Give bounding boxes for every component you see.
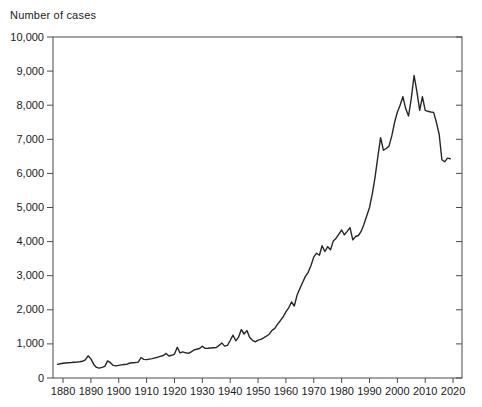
x-axis-tick-label: 1960 bbox=[274, 385, 298, 397]
x-axis-tick-label: 1920 bbox=[162, 385, 186, 397]
x-axis-tick-label: 1880 bbox=[51, 385, 75, 397]
x-axis-tick-label: 2010 bbox=[413, 385, 437, 397]
plot-frame bbox=[53, 37, 462, 378]
y-axis-tick-label: 4,000 bbox=[16, 235, 44, 247]
x-axis-tick-label: 1990 bbox=[357, 385, 381, 397]
chart-plot-area: 01,0002,0003,0004,0005,0006,0007,0008,00… bbox=[0, 0, 482, 407]
x-axis-tick-label: 1930 bbox=[190, 385, 214, 397]
x-axis-tick-label: 1970 bbox=[302, 385, 326, 397]
y-axis-tick-label: 8,000 bbox=[16, 99, 44, 111]
y-axis-tick-label: 9,000 bbox=[16, 65, 44, 77]
x-axis-tick-label: 1890 bbox=[79, 385, 103, 397]
y-axis-tick-label: 10,000 bbox=[10, 31, 44, 43]
x-axis-tick-label: 2000 bbox=[385, 385, 409, 397]
line-chart-figure: Number of cases 01,0002,0003,0004,0005,0… bbox=[0, 0, 482, 407]
y-axis-tick-label: 2,000 bbox=[16, 303, 44, 315]
y-axis-tick-label: 3,000 bbox=[16, 269, 44, 281]
y-axis-tick-label: 6,000 bbox=[16, 167, 44, 179]
x-axis-tick-label: 2020 bbox=[441, 385, 465, 397]
x-axis-tick-label: 1940 bbox=[218, 385, 242, 397]
y-axis-tick-label: 5,000 bbox=[16, 201, 44, 213]
y-axis-tick-label: 1,000 bbox=[16, 337, 44, 349]
x-axis-tick-label: 1900 bbox=[107, 385, 131, 397]
y-axis-tick-label: 0 bbox=[38, 372, 44, 384]
y-axis-tick-label: 7,000 bbox=[16, 133, 44, 145]
x-axis-tick-label: 1950 bbox=[246, 385, 270, 397]
data-line-series bbox=[58, 76, 451, 369]
x-axis-tick-label: 1910 bbox=[134, 385, 158, 397]
x-axis-tick-label: 1980 bbox=[329, 385, 353, 397]
